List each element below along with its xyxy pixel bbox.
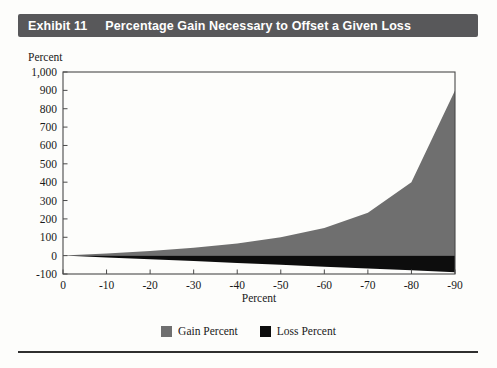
x-tick-label: -20	[142, 279, 158, 291]
y-tick-label: 400	[40, 176, 58, 188]
y-tick-label: 300	[40, 195, 58, 207]
y-tick-label: 600	[40, 139, 58, 151]
y-tick-label: 500	[40, 158, 58, 170]
gain-percent-swatch	[161, 326, 172, 337]
y-tick-label: 200	[40, 213, 58, 225]
x-tick-label: -30	[186, 279, 202, 291]
loss-percent-legend-label: Loss Percent	[277, 325, 336, 337]
y-tick-label: 100	[40, 231, 58, 243]
y-tick-label: 0	[51, 250, 57, 262]
gain-percent-area	[63, 90, 455, 255]
y-tick-label: 900	[40, 84, 58, 96]
x-tick-label: 0	[60, 279, 66, 291]
x-tick-label: -10	[99, 279, 115, 291]
x-tick-label: -60	[317, 279, 333, 291]
loss-percent-swatch	[260, 326, 271, 337]
x-tick-label: -40	[230, 279, 246, 291]
bottom-rule	[18, 351, 478, 353]
y-tick-label: 1,000	[31, 66, 57, 79]
chart-canvas: -10001002003004005006007008009001,0000-1…	[0, 0, 497, 368]
x-tick-label: -90	[447, 279, 463, 291]
chart-legend: Gain Percent Loss Percent	[0, 325, 497, 337]
legend-item-loss: Loss Percent	[260, 325, 336, 337]
y-tick-label: 800	[40, 103, 58, 115]
x-tick-label: -70	[360, 279, 376, 291]
exhibit-page: Exhibit 11 Percentage Gain Necessary to …	[0, 0, 497, 368]
x-tick-label: -50	[273, 279, 289, 291]
legend-item-gain: Gain Percent	[161, 325, 238, 337]
x-tick-label: -80	[404, 279, 420, 291]
y-tick-label: -100	[36, 268, 57, 280]
gain-percent-legend-label: Gain Percent	[178, 325, 238, 337]
y-tick-label: 700	[40, 121, 58, 133]
loss-percent-area	[63, 256, 455, 273]
x-axis-title: Percent	[63, 292, 455, 304]
